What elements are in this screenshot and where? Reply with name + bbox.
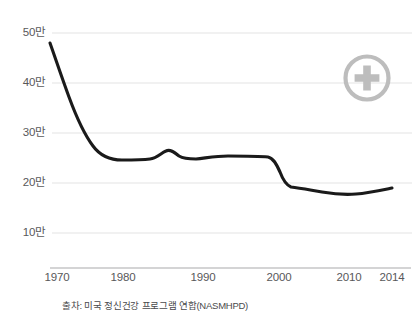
x-tick-2010: 2010 xyxy=(336,272,361,284)
plus-circle-icon[interactable] xyxy=(341,52,393,104)
x-tick-1990: 1990 xyxy=(190,272,215,284)
line-chart-svg xyxy=(0,0,419,275)
x-tick-1970: 1970 xyxy=(44,272,69,284)
x-tick-1980: 1980 xyxy=(110,272,135,284)
chart-figure: 50만 40만 30만 20만 10만 1970 1980 1990 2000 … xyxy=(0,0,419,321)
y-tick-40: 40만 xyxy=(0,77,46,89)
y-tick-30: 30만 xyxy=(0,127,46,139)
x-tick-2014: 2014 xyxy=(379,272,404,284)
y-tick-20: 20만 xyxy=(0,177,46,189)
source-caption: 출차: 미국 정신건강 프로그램 연합(NASMHPD) xyxy=(62,301,248,311)
badge-plus-shape xyxy=(355,66,380,91)
plot-area: 50만 40만 30만 20만 10만 xyxy=(0,0,419,275)
y-tick-50: 50만 xyxy=(0,27,46,39)
x-tick-2000: 2000 xyxy=(266,272,291,284)
x-axis-tick-labels: 1970 1980 1990 2000 2010 2014 xyxy=(0,272,419,292)
plus-circle-glyph xyxy=(341,52,393,104)
y-tick-10: 10만 xyxy=(0,227,46,239)
y-axis-tick-labels: 50만 40만 30만 20만 10만 xyxy=(0,0,46,275)
